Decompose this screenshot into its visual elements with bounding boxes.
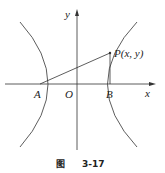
x-axis-arrow-icon xyxy=(149,82,156,86)
y-axis-arrow-icon xyxy=(75,9,79,16)
segment-AP xyxy=(40,53,110,84)
origin-label: O xyxy=(65,88,73,100)
y-axis-label: y xyxy=(64,8,70,20)
hyperbola-diagram: y x O A B P(x, y) 图 3-17 xyxy=(0,0,165,173)
hyperbola-right-branch xyxy=(108,22,138,147)
figure-caption-number: 3-17 xyxy=(82,159,105,169)
hyperbola-left-branch xyxy=(20,22,48,147)
point-P-dot xyxy=(109,52,111,54)
point-B-label: B xyxy=(106,88,113,100)
point-A-label: A xyxy=(33,88,41,100)
figure-caption-prefix: 图 xyxy=(56,159,65,169)
x-axis-label: x xyxy=(144,87,150,99)
point-P-label: P(x, y) xyxy=(113,47,144,60)
